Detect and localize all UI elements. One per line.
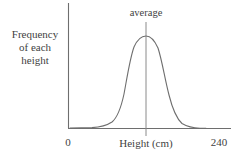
y-axis-label-line1: Frequency xyxy=(4,28,66,41)
y-axis-label-line3: height xyxy=(4,54,66,67)
average-annotation-label: average xyxy=(116,7,176,19)
distribution-chart: Frequency of each height average Height … xyxy=(0,0,239,160)
x-axis-label: Height (cm) xyxy=(101,137,191,150)
x-axis-tick-max: 240 xyxy=(204,136,234,149)
x-axis-tick-min: 0 xyxy=(58,136,78,149)
distribution-curve xyxy=(70,36,206,128)
y-axis-label: Frequency of each height xyxy=(4,28,66,67)
y-axis-label-line2: of each xyxy=(4,41,66,54)
